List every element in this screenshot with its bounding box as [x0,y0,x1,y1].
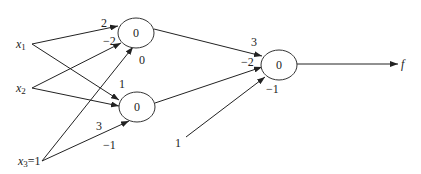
weight-x2-h1: −2 [103,34,116,48]
weight-x3-h2-extra: −1 [103,138,116,152]
edge-x2-h2 [32,88,119,106]
edge-x3-h2 [42,121,129,161]
weight-x1-h1: 2 [101,16,107,30]
input-x2-label: x2 [15,81,26,96]
hidden-node-2: 0 [119,92,155,122]
output-f-label: f [401,57,406,71]
input-x3-label: x3=1 [17,154,41,169]
weight-h2-o: −2 [241,55,254,69]
svg-text:0: 0 [276,58,282,72]
hidden-node-1: 0 [118,18,154,48]
edge-bias-o [186,77,265,137]
edge-h1-o [154,29,262,56]
bias-input-label: 1 [175,136,181,150]
weight-x3-h2: 3 [96,119,102,133]
svg-text:0: 0 [134,100,140,114]
weight-bias-o: −1 [266,82,279,96]
neural-network-diagram: 0 0 0 x1 x2 x3=1 2 −2 0 1 3 −1 3 −2 −1 1… [0,0,421,174]
edge-x1-h2 [32,44,119,100]
weight-x3-h1: 0 [139,53,145,67]
weight-x1-h2: 1 [119,77,125,91]
svg-text:0: 0 [133,26,139,40]
input-x1-label: x1 [15,37,26,52]
edge-x2-h1 [32,43,121,88]
output-node: 0 [261,50,297,80]
edge-h2-o [155,67,262,103]
weight-h1-o: 3 [251,35,257,49]
